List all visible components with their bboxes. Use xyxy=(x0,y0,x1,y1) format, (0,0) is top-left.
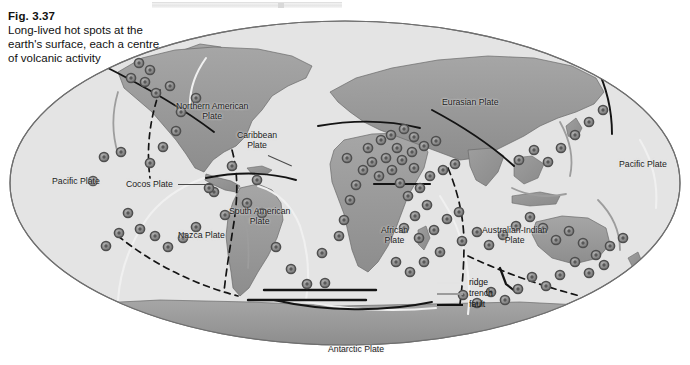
plate-label-cocos: Cocos Plate xyxy=(126,179,173,189)
plate-label-antarctic: Antarctic Plate xyxy=(328,344,384,354)
hotspot-marker-core xyxy=(418,186,421,189)
hotspot-marker-core xyxy=(602,263,605,266)
hotspot-marker-core xyxy=(390,168,393,171)
hotspot-marker-core xyxy=(532,148,535,151)
hotspot-marker-core xyxy=(554,238,557,241)
hotspot-marker-core xyxy=(126,211,129,214)
hotspot-marker-core xyxy=(230,164,233,167)
hotspot-marker-core xyxy=(166,245,169,248)
hotspot-marker-core xyxy=(567,229,570,232)
hotspot-marker-core xyxy=(601,108,604,111)
hotspot-marker-core xyxy=(345,156,348,159)
figure-caption-text: Long-lived hot spots at the earth's surf… xyxy=(8,23,168,66)
hotspot-marker-core xyxy=(174,129,177,132)
hotspot-marker-core xyxy=(422,144,425,147)
hotspot-marker-core xyxy=(428,174,431,177)
hotspot-marker-core xyxy=(441,168,444,171)
hotspot-marker-core xyxy=(546,160,549,163)
hotspot-marker-core xyxy=(425,203,428,206)
hotspot-marker-core xyxy=(384,156,387,159)
hotspot-marker-core xyxy=(161,145,164,148)
hotspot-marker-core xyxy=(445,217,448,220)
plate-label-australian-indian: Australian-Indian Plate xyxy=(482,225,547,246)
hotspot-marker-core xyxy=(305,282,308,285)
hotspot-marker-core xyxy=(366,146,369,149)
hotspot-marker-core xyxy=(148,68,151,71)
hotspot-marker-core xyxy=(530,275,533,278)
hotspot-marker-core xyxy=(245,201,248,204)
hotspot-marker-core xyxy=(337,234,340,237)
legend-label-fault: fault xyxy=(469,299,485,310)
hotspot-marker-core xyxy=(354,183,357,186)
legend-swatch-ridge xyxy=(437,282,463,284)
hotspot-marker-core xyxy=(422,260,425,263)
hotspot-marker-core xyxy=(573,260,576,263)
hotspot-marker-core xyxy=(348,198,351,201)
hotspot-marker-core xyxy=(402,127,405,130)
figure-root: Fig. 3.37 Long-lived hot spots at the ea… xyxy=(0,0,690,365)
plate-label-north-american: Northern American Plate xyxy=(176,101,248,122)
figure-number: Fig. 3.37 xyxy=(8,10,168,22)
figure-caption: Fig. 3.37 Long-lived hot spots at the ea… xyxy=(8,10,168,66)
legend-label-ridge: ridge xyxy=(469,277,488,288)
hotspot-marker-core xyxy=(559,146,562,149)
hotspot-marker-core xyxy=(194,96,197,99)
hotspot-marker-core xyxy=(395,146,398,149)
hotspot-marker-core xyxy=(138,227,141,230)
hotspot-marker-core xyxy=(389,133,392,136)
hotspot-marker-core xyxy=(400,158,403,161)
hotspot-marker-core xyxy=(207,186,210,189)
hotspot-marker-core xyxy=(417,236,420,239)
legend-swatch-trench xyxy=(437,293,463,295)
hotspot-marker-core xyxy=(410,150,413,153)
legend-row-fault: fault xyxy=(437,299,505,310)
hotspot-marker-core xyxy=(558,273,561,276)
hotspot-marker-core xyxy=(544,284,547,287)
hotspot-marker-core xyxy=(223,213,226,216)
hotspot-marker-core xyxy=(516,287,519,290)
plate-label-caribbean: Caribbean Plate xyxy=(237,130,277,151)
hotspot-marker-core xyxy=(621,236,624,239)
hotspot-marker-core xyxy=(377,174,380,177)
hotspot-marker-core xyxy=(117,231,120,234)
legend-swatch-fault xyxy=(437,304,463,306)
hotspot-marker-core xyxy=(370,160,373,163)
hotspot-marker-core xyxy=(457,210,460,213)
plate-label-african: African Plate xyxy=(381,225,408,246)
plate-label-eurasian: Eurasian Plate xyxy=(442,97,499,107)
hotspot-marker-core xyxy=(573,133,576,136)
legend-label-trench: trench xyxy=(469,288,493,299)
hotspot-marker-core xyxy=(274,245,277,248)
hotspot-marker-core xyxy=(342,218,345,221)
legend-row-trench: trench xyxy=(437,288,505,299)
leader-line-cocos xyxy=(178,184,212,185)
hotspot-marker-core xyxy=(413,214,416,217)
hotspot-marker-core xyxy=(129,76,132,79)
hotspot-marker-core xyxy=(394,260,397,263)
hotspot-marker-core xyxy=(587,271,590,274)
hotspot-marker-core xyxy=(148,161,151,164)
hotspot-marker-core xyxy=(194,225,197,228)
plate-label-pacific-east: Pacific Plate xyxy=(619,159,667,169)
hotspot-marker-core xyxy=(528,215,531,218)
hotspot-marker-core xyxy=(119,150,122,153)
hotspot-marker-core xyxy=(412,135,415,138)
hotspot-marker-core xyxy=(408,270,411,273)
hotspot-marker-core xyxy=(168,84,171,87)
hotspot-marker-core xyxy=(460,239,463,242)
hotspot-marker-core xyxy=(581,241,584,244)
hotspot-marker-core xyxy=(289,267,292,270)
hotspot-marker-core xyxy=(406,194,409,197)
plate-label-south-american: South American Plate xyxy=(229,206,290,227)
hotspot-marker-core xyxy=(323,281,326,284)
hotspot-marker-core xyxy=(320,251,323,254)
map-legend: ridge trench fault xyxy=(437,277,505,317)
hotspot-marker-core xyxy=(398,181,401,184)
plate-label-pacific-west: Pacific Plate xyxy=(52,176,100,186)
plate-label-nazca: Nazca Plate xyxy=(178,230,225,240)
hotspot-marker-core xyxy=(475,230,478,233)
hotspot-marker-core xyxy=(438,250,441,253)
hotspot-marker-core xyxy=(608,244,611,247)
hotspot-marker-core xyxy=(379,138,382,141)
hotspot-marker-core xyxy=(517,158,520,161)
